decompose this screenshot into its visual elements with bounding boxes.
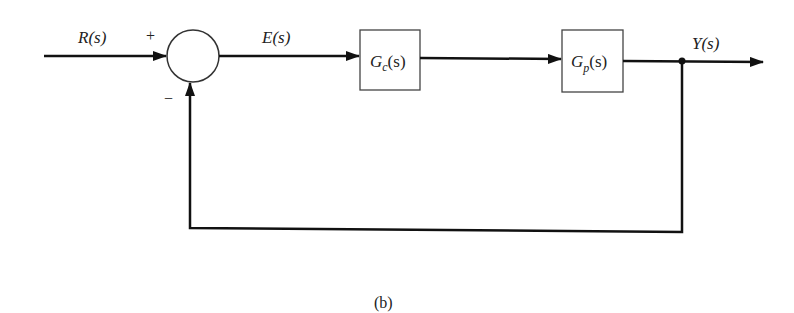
input-label: R(s) [77,28,107,47]
control-signal-arrow [420,58,561,59]
block-diagram: R(s) + − E(s) Gc(s) Gp(s) Y(s) (b) [0,0,794,313]
output-label: Y(s) [692,34,720,53]
output-arrow [623,61,763,62]
plus-sign: + [146,27,155,44]
summing-junction [167,30,219,82]
controller-label: Gc(s) [370,52,406,74]
error-label: E(s) [261,28,291,47]
minus-sign: − [164,90,173,107]
figure-caption: (b) [374,294,393,312]
